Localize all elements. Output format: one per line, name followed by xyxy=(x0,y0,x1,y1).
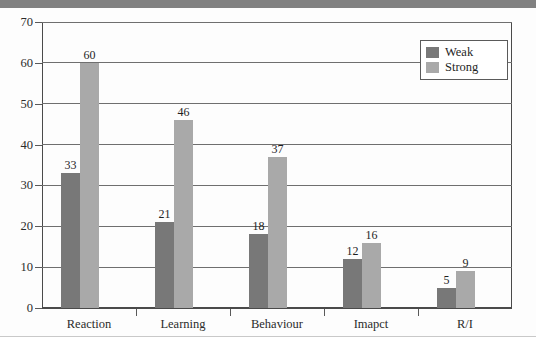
y-tick-20 xyxy=(35,226,42,227)
y-axis-label-text: 10 xyxy=(5,261,33,273)
bar-chart: 010203040506070 ReactionLearningBehaviou… xyxy=(0,0,536,345)
x-axis-label-behaviour: Behaviour xyxy=(230,317,324,331)
bar-reaction-strong[interactable] xyxy=(80,63,99,308)
y-axis-label-text: 60 xyxy=(5,57,33,69)
y-axis-label: 20 xyxy=(0,220,33,232)
bar-value-label: 5 xyxy=(431,274,462,286)
bar-value-label: 12 xyxy=(337,245,368,257)
bar-value-label: 18 xyxy=(243,220,274,232)
bar-value-label: 16 xyxy=(356,229,387,241)
y-tick-10 xyxy=(35,267,42,268)
x-axis-label-imapct: Imapct xyxy=(324,317,418,331)
y-tick-0 xyxy=(35,308,42,309)
bar-value-label: 37 xyxy=(262,143,293,155)
bar-value-label: 60 xyxy=(74,49,105,61)
y-axis-label: 50 xyxy=(0,98,33,110)
bar-learning-weak[interactable] xyxy=(155,222,174,308)
legend-item-weak[interactable]: Weak xyxy=(426,45,502,60)
bar-behaviour-weak[interactable] xyxy=(249,234,268,308)
y-axis-label-text: 40 xyxy=(5,139,33,151)
legend-swatch-icon xyxy=(426,47,439,58)
x-tick-divider xyxy=(230,309,231,316)
x-axis-label-reaction: Reaction xyxy=(42,317,136,331)
bar-value-label: 9 xyxy=(450,257,481,269)
x-axis-label-r-i: R/I xyxy=(418,317,512,331)
y-axis-label-text: 20 xyxy=(5,220,33,232)
bar-reaction-weak[interactable] xyxy=(61,173,80,308)
chart-legend: WeakStrong xyxy=(420,40,508,80)
y-tick-70 xyxy=(35,22,42,23)
legend-item-strong[interactable]: Strong xyxy=(426,60,502,75)
y-tick-60 xyxy=(35,63,42,64)
y-axis-label: 10 xyxy=(0,261,33,273)
y-axis-label: 70 xyxy=(0,16,33,28)
y-axis-label: 0 xyxy=(0,302,33,314)
y-tick-50 xyxy=(35,104,42,105)
bar-r-i-weak[interactable] xyxy=(437,288,456,308)
x-tick-divider xyxy=(418,309,419,316)
y-axis-label: 30 xyxy=(0,179,33,191)
legend-swatch-icon xyxy=(426,62,439,73)
bar-value-label: 21 xyxy=(149,208,180,220)
legend-label: Weak xyxy=(445,46,473,59)
bar-value-label: 33 xyxy=(55,159,86,171)
y-axis-label: 60 xyxy=(0,57,33,69)
y-axis-label-text: 50 xyxy=(5,98,33,110)
x-axis-label-learning: Learning xyxy=(136,317,230,331)
y-axis-label-text: 70 xyxy=(5,16,33,28)
y-axis-label-text: 0 xyxy=(5,302,33,314)
y-tick-30 xyxy=(35,185,42,186)
y-axis-label: 40 xyxy=(0,139,33,151)
legend-label: Strong xyxy=(445,61,478,74)
bar-value-label: 46 xyxy=(168,106,199,118)
x-tick-divider xyxy=(136,309,137,316)
bar-imapct-weak[interactable] xyxy=(343,259,362,308)
y-axis-label-text: 30 xyxy=(5,179,33,191)
x-tick-divider xyxy=(324,309,325,316)
y-tick-40 xyxy=(35,145,42,146)
